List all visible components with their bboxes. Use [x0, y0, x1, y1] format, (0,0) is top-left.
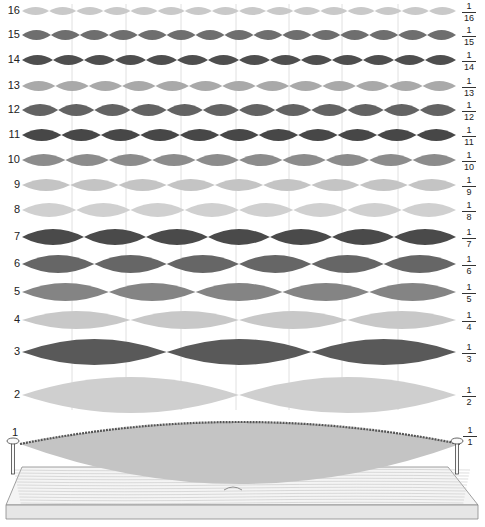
standing-wave-loop-14	[332, 55, 363, 65]
standing-wave-loop-14	[22, 55, 53, 65]
standing-wave-loop-8	[402, 203, 456, 217]
standing-wave-loop-13	[222, 81, 255, 91]
right-peg-head	[451, 438, 463, 444]
standing-wave-loop-15	[398, 30, 427, 40]
standing-wave-loop-15	[167, 30, 196, 40]
left-peg-shaft	[12, 442, 15, 474]
left-peg-head	[7, 438, 19, 444]
fraction-numerator: 1	[462, 101, 476, 110]
standing-wave-loop-10	[326, 154, 369, 166]
standing-wave-loop-12	[22, 104, 58, 116]
standing-wave-loop-15	[109, 30, 138, 40]
fraction-numerator: 1	[462, 51, 476, 60]
standing-wave-loop-13	[322, 81, 355, 91]
harmonic-label: 13	[2, 79, 20, 91]
wavelength-fraction: 113	[462, 77, 476, 98]
standing-wave-loop-14	[115, 55, 146, 65]
wavelength-fraction: 116	[462, 2, 476, 23]
standing-wave-loop-14	[270, 55, 301, 65]
standing-wave-loop-16	[103, 7, 130, 15]
standing-wave-loop-14	[425, 55, 456, 65]
fraction-denominator: 3	[462, 355, 476, 364]
standing-wave-loop-3	[22, 339, 167, 365]
standing-wave-loop-11	[22, 129, 61, 141]
standing-wave-loop-4	[348, 311, 457, 329]
wavelength-fraction: 12	[462, 386, 476, 407]
wavelength-fraction: 19	[462, 176, 476, 197]
standing-wave-loop-16	[212, 7, 239, 15]
standing-wave-loop-8	[131, 203, 185, 217]
standing-wave-loop-15	[369, 30, 398, 40]
standing-wave-loop-11	[101, 129, 140, 141]
standing-wave-loop-16	[402, 7, 429, 15]
standing-wave-loop-7	[84, 229, 146, 245]
harmonic-label: 9	[2, 178, 20, 190]
standing-wave-loop-13	[423, 81, 456, 91]
standing-wave-loop-16	[22, 7, 49, 15]
standing-wave-loop-10	[152, 154, 195, 166]
standing-wave-loop-9	[70, 179, 118, 191]
fraction-numerator: 1	[462, 228, 476, 237]
fraction-numerator: 1	[462, 176, 476, 185]
standing-wave-loop-13	[389, 81, 422, 91]
standing-wave-loop-8	[185, 203, 239, 217]
standing-wave-loop-5	[369, 283, 456, 301]
standing-wave-loop-13	[356, 81, 389, 91]
wavelength-fraction: 110	[462, 151, 476, 172]
fraction-denominator: 9	[462, 188, 476, 197]
standing-wave-loop-9	[311, 179, 359, 191]
standing-wave-loop-14	[53, 55, 84, 65]
fraction-numerator: 1	[462, 311, 476, 320]
standing-wave-loop-5	[196, 283, 283, 301]
standing-wave-loop-6	[22, 255, 94, 273]
standing-wave-loop-9	[408, 179, 456, 191]
fraction-denominator: 5	[462, 295, 476, 304]
standing-wave-loop-14	[146, 55, 177, 65]
standing-wave-loop-5	[109, 283, 196, 301]
standing-wave-loop-15	[253, 30, 282, 40]
standing-wave-loop-5	[22, 283, 109, 301]
standing-wave-loop-9	[263, 179, 311, 191]
standing-wave-loop-13	[156, 81, 189, 91]
standing-wave-loop-12	[94, 104, 130, 116]
fraction-denominator: 6	[462, 267, 476, 276]
standing-wave-loop-16	[76, 7, 103, 15]
standing-wave-loop-12	[239, 104, 275, 116]
harmonic-label: 4	[2, 313, 20, 325]
standing-wave-loop-15	[196, 30, 225, 40]
harmonic-label: 3	[2, 345, 20, 357]
standing-wave-loop-10	[369, 154, 412, 166]
standing-wave-loop-15	[427, 30, 456, 40]
standing-wave-loop-9	[22, 179, 70, 191]
fraction-denominator: 1	[463, 438, 477, 447]
standing-wave-loop-11	[338, 129, 377, 141]
standing-wave-loop-11	[417, 129, 456, 141]
standing-wave-loop-10	[196, 154, 239, 166]
board-front	[6, 505, 478, 519]
wavelength-fraction: 112	[462, 101, 476, 122]
standing-wave-loop-6	[94, 255, 166, 273]
fraction-numerator: 1	[462, 201, 476, 210]
fraction-numerator: 1	[462, 2, 476, 11]
standing-wave-loop-11	[377, 129, 416, 141]
harmonic-label: 11	[2, 128, 20, 140]
standing-wave-loop-5	[282, 283, 369, 301]
fraction-numerator: 1	[462, 255, 476, 264]
harmonic-label: 8	[2, 203, 20, 215]
standing-wave-loop-13	[55, 81, 88, 91]
wavelength-fraction: 13	[462, 343, 476, 364]
standing-wave-loop-6	[311, 255, 383, 273]
harmonic-label: 15	[2, 28, 20, 40]
harmonic-label: 14	[2, 53, 20, 65]
harmonic-label: 6	[2, 257, 20, 269]
standing-wave-loop-11	[259, 129, 298, 141]
standing-wave-loop-4	[239, 311, 348, 329]
standing-wave-loop-4	[22, 311, 131, 329]
standing-wave-loop-16	[320, 7, 347, 15]
standing-wave-loop-14	[177, 55, 208, 65]
standing-wave-loop-16	[348, 7, 375, 15]
standing-wave-loop-14	[363, 55, 394, 65]
harmonic-label: 10	[2, 153, 20, 165]
standing-wave-loop-13	[189, 81, 222, 91]
standing-wave-loop-7	[394, 229, 456, 245]
